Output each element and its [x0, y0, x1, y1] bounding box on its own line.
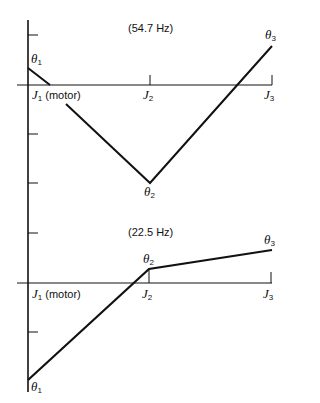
lower-j1-label: J1 (motor)	[32, 288, 81, 304]
lower-j2-label: J2	[142, 288, 152, 304]
lower-theta2-label: θ2	[143, 253, 154, 269]
subscript: 3	[270, 94, 274, 103]
upper-j2-label: J2	[143, 89, 153, 105]
subscript: 3	[271, 34, 275, 43]
upper-j1-label: J1 (motor)	[32, 89, 81, 105]
lower-theta1-label: θ1	[31, 381, 42, 397]
subscript: 3	[270, 239, 274, 248]
upper-theta3-label: θ3	[265, 29, 276, 45]
upper-j3-label: J3	[264, 89, 274, 105]
subscript: 1	[38, 293, 42, 302]
upper-mode-shape-segment-1	[28, 68, 50, 85]
subscript: 2	[149, 258, 153, 267]
subscript: 2	[149, 94, 153, 103]
upper-theta1-label: θ1	[31, 53, 42, 69]
subscript: 2	[148, 293, 152, 302]
motor-suffix: (motor)	[45, 89, 80, 101]
lower-mode-shape	[28, 250, 272, 380]
lower-j3-label: J3	[263, 288, 273, 304]
subscript: 2	[150, 191, 154, 200]
upper-mode-shape-segment-2	[66, 46, 272, 183]
lower-theta3-label: θ3	[264, 234, 275, 250]
upper-theta2-label: θ2	[144, 186, 155, 202]
subscript: 1	[37, 386, 41, 395]
subscript: 3	[269, 293, 273, 302]
upper-frequency-label: (54.7 Hz)	[128, 22, 173, 34]
subscript: 1	[38, 94, 42, 103]
subscript: 1	[37, 58, 41, 67]
motor-suffix: (motor)	[45, 288, 80, 300]
lower-frequency-label: (22.5 Hz)	[128, 226, 173, 238]
